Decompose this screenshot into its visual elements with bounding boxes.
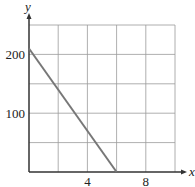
labels: x y (23, 0, 195, 179)
data-line (29, 49, 117, 172)
x-tick-label: 4 (84, 174, 91, 187)
x-tick-label: 8 (143, 174, 150, 187)
y-tick-label: 100 (6, 106, 26, 121)
series (29, 49, 117, 172)
x-axis-label: x (188, 164, 195, 179)
line-chart: x y 48100200 (0, 0, 195, 187)
x-axis-arrow-icon (181, 170, 187, 175)
y-tick-label: 200 (6, 47, 26, 62)
y-axis-label: y (23, 0, 31, 14)
axes (27, 13, 188, 175)
